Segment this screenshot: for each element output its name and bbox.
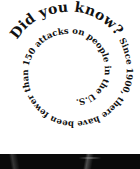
photo-strip [0, 154, 140, 169]
spiral-text: Did you know?Since 1900, there have been… [6, 0, 134, 129]
spiral-body: Since 1900, there have been fewer than 1… [20, 26, 135, 130]
spiral-fact-graphic: Did you know?Since 1900, there have been… [0, 0, 140, 150]
